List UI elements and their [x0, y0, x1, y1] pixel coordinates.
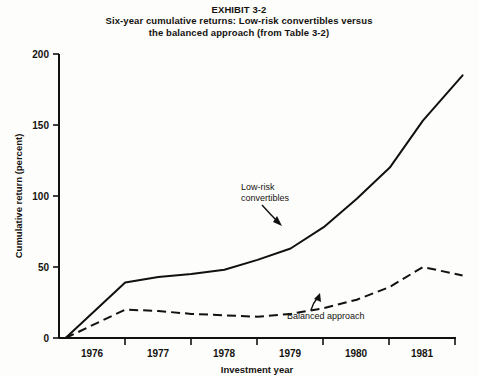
x-axis-title: Investment year — [221, 364, 294, 375]
y-tick-label: 100 — [32, 191, 49, 202]
chart-plot-area: 200 150 100 50 0 Cumulative return (perc… — [0, 0, 478, 377]
y-tick-label: 150 — [32, 120, 49, 131]
y-tick-label: 50 — [38, 262, 50, 273]
annotation-low-risk-convertibles: Low-risk convertibles — [241, 182, 290, 226]
exhibit-figure: EXHIBIT 3-2 Six-year cumulative returns:… — [0, 0, 478, 377]
annotation-label-line-1: Balanced approach — [287, 311, 365, 321]
x-tick-label: 1979 — [279, 348, 302, 359]
x-axis-tick-labels: 1976 1977 1978 1979 1980 1981 — [81, 348, 434, 359]
series-line-balanced-approach — [66, 267, 463, 338]
x-tick-label: 1977 — [147, 348, 170, 359]
x-tick-label: 1980 — [345, 348, 368, 359]
annotation-label-line-2: convertibles — [241, 193, 290, 203]
y-axis-tick-labels: 200 150 100 50 0 — [32, 49, 49, 344]
y-axis-title: Cumulative return (percent) — [13, 134, 24, 259]
y-tick-label: 0 — [43, 333, 49, 344]
x-tick-label: 1981 — [411, 348, 434, 359]
x-axis-ticks — [125, 338, 455, 345]
y-tick-label: 200 — [32, 49, 49, 60]
x-tick-label: 1978 — [213, 348, 236, 359]
annotation-label-line-1: Low-risk — [241, 182, 275, 192]
x-tick-label: 1976 — [81, 348, 104, 359]
